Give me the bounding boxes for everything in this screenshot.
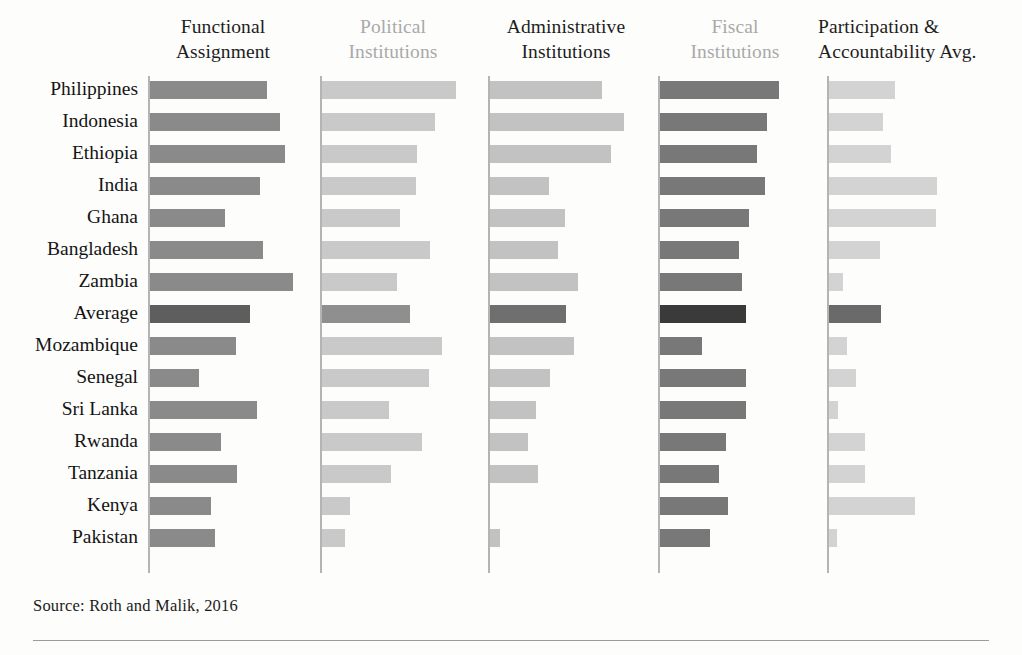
bar-row [150,330,300,362]
bar [829,465,865,483]
bar-row [660,234,812,266]
column-header-administrative-institutions: AdministrativeInstitutions [478,14,654,64]
column-header-fiscal-institutions: FiscalInstitutions [660,14,810,64]
bar [490,241,559,259]
bar [490,209,565,227]
bar-row [660,106,812,138]
bar [829,241,880,259]
bar-row [150,74,300,106]
bar [490,401,536,419]
bar [829,209,936,227]
bar-row [490,522,642,554]
bar [490,369,551,387]
bar-row [150,298,300,330]
bar-row [322,298,472,330]
bar-row [490,426,642,458]
bar-row [660,74,812,106]
bar-row [322,202,472,234]
bar-row [829,170,989,202]
bar [150,401,257,419]
bar-row [322,74,472,106]
bottom-rule [33,640,989,641]
bar [829,497,915,515]
chart-panel [488,76,640,573]
bar-row [829,298,989,330]
bar [490,145,612,163]
bar [829,145,892,163]
bar-row [660,138,812,170]
bar [660,113,767,131]
bar [829,81,896,99]
bar-row [322,106,472,138]
bar [322,433,422,451]
bar-row [490,394,642,426]
bar [150,113,280,131]
bar [660,497,729,515]
bar-row [660,202,812,234]
bar [660,273,742,291]
bar [322,529,345,547]
bar [660,145,758,163]
bar-row [150,202,300,234]
bar-row [322,458,472,490]
bar-row [829,330,989,362]
bar-row [490,330,642,362]
bar-row [322,394,472,426]
bar [322,401,390,419]
bar [660,337,702,355]
bar-row [490,138,642,170]
bar [150,433,222,451]
bar [490,465,539,483]
source-note: Source: Roth and Malik, 2016 [33,596,238,616]
bar [829,369,857,387]
bar-row [490,106,642,138]
bar-row [150,106,300,138]
bar-row [322,522,472,554]
bar-row [150,234,300,266]
bar-row [829,138,989,170]
bar-row [490,298,642,330]
bar [490,113,625,131]
bar-row [150,426,300,458]
bar [829,177,938,195]
bar [829,433,865,451]
bar-row [490,362,642,394]
bar [490,529,501,547]
bar [829,273,843,291]
bar [322,81,456,99]
bar [660,465,719,483]
bar-row [322,138,472,170]
bar [322,241,430,259]
bar [829,305,882,323]
bar [322,145,417,163]
bar [150,145,286,163]
bar [829,401,839,419]
bar [660,401,746,419]
bar-row [322,266,472,298]
bar-row [829,490,989,522]
bar [660,177,766,195]
chart-panel [827,76,987,573]
bar-row [490,266,642,298]
chart-panel [320,76,470,573]
bar-row [490,234,642,266]
bar [660,305,746,323]
chart-panel [148,76,298,573]
bar [660,81,779,99]
bar-row [322,426,472,458]
bar-row [322,170,472,202]
bar-row [490,202,642,234]
bar-row [829,458,989,490]
bar-row [829,202,989,234]
bar-row [150,522,300,554]
bar [660,433,726,451]
bar [490,273,579,291]
bar-row [150,266,300,298]
bar-row [150,362,300,394]
bar [150,241,263,259]
bar-row [150,394,300,426]
bar-row [660,490,812,522]
bar-row [660,458,812,490]
bar-row [490,170,642,202]
bar [829,529,837,547]
